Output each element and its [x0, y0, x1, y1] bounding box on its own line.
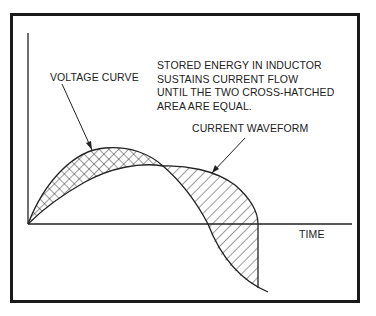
hatched-area	[163, 166, 258, 288]
annotation-line: AREA ARE EQUAL.	[157, 100, 334, 114]
current-pointer-arrow	[212, 138, 245, 173]
current-waveform-label: CURRENT WAVEFORM	[192, 122, 308, 135]
waveform-diagram	[0, 0, 376, 316]
annotation-line: SUSTAINS CURRENT FLOW	[157, 73, 334, 87]
annotation-line: STORED ENERGY IN INDUCTOR	[157, 59, 334, 73]
voltage-curve-label: VOLTAGE CURVE	[50, 71, 139, 84]
annotation-text: STORED ENERGY IN INDUCTOR SUSTAINS CURRE…	[157, 59, 334, 113]
time-axis-label: TIME	[299, 228, 324, 241]
annotation-line: UNTIL THE TWO CROSS-HATCHED	[157, 86, 334, 100]
voltage-pointer-arrow	[62, 84, 92, 150]
